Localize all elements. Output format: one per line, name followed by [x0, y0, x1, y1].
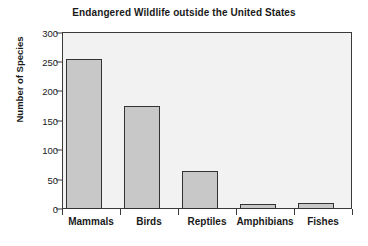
x-tick-mark: [178, 209, 179, 215]
y-tick-mark: [56, 61, 62, 62]
y-tick-label: 200: [18, 86, 58, 97]
y-tick-label: 0: [18, 204, 58, 215]
x-tick-mark: [62, 209, 63, 215]
x-tick-mark: [120, 209, 121, 215]
x-tick-label: Fishes: [307, 216, 339, 227]
y-tick-mark: [56, 150, 62, 151]
bar: [182, 171, 218, 209]
y-tick-label: 300: [18, 27, 58, 38]
bar: [240, 204, 276, 209]
x-tick-mark: [236, 209, 237, 215]
y-tick-mark: [56, 179, 62, 180]
bar-chart: Endangered Wildlife outside the United S…: [0, 0, 368, 246]
x-tick-label: Mammals: [68, 216, 114, 227]
y-tick-mark: [56, 91, 62, 92]
bar: [66, 59, 102, 209]
y-tick-mark: [56, 32, 62, 33]
bar: [124, 106, 160, 209]
x-tick-label: Reptiles: [188, 216, 227, 227]
y-tick-label: 100: [18, 145, 58, 156]
chart-title: Endangered Wildlife outside the United S…: [0, 7, 368, 18]
bar: [298, 203, 334, 209]
x-tick-label: Amphibians: [236, 216, 293, 227]
x-tick-label: Birds: [136, 216, 162, 227]
x-tick-mark: [352, 209, 353, 215]
x-tick-mark: [294, 209, 295, 215]
y-tick-label: 50: [18, 174, 58, 185]
y-tick-label: 150: [18, 115, 58, 126]
y-tick-label: 250: [18, 56, 58, 67]
y-tick-mark: [56, 120, 62, 121]
